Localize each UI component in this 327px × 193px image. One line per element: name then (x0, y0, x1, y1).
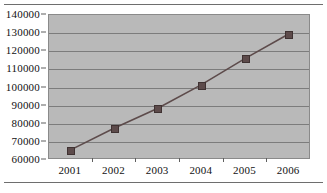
y-axis-tick-mark (41, 104, 46, 105)
series-line (49, 15, 309, 159)
x-axis-tick-label: 2005 (233, 164, 256, 176)
data-point-marker (154, 105, 162, 113)
y-axis-tick-mark (41, 32, 46, 33)
y-axis-tick-mark (41, 159, 46, 160)
y-axis-tick-mark (41, 68, 46, 69)
data-point-marker (67, 147, 75, 155)
y-axis-tick-label: 70000 (12, 135, 41, 147)
y-axis-tick-mark (41, 86, 46, 87)
x-axis-tick-label: 2003 (146, 164, 169, 176)
x-axis-tick-label: 2001 (58, 164, 81, 176)
data-point-marker (198, 82, 206, 90)
y-axis-tick-label: 110000 (6, 62, 40, 74)
y-axis-tick-label: 90000 (12, 99, 41, 111)
x-axis-tick-label: 2004 (189, 164, 212, 176)
data-point-marker (285, 31, 293, 39)
data-point-marker (242, 55, 250, 63)
x-axis: 200120022003200420052006 (48, 161, 310, 181)
y-axis-tick-mark (41, 122, 46, 123)
data-point-marker (111, 125, 119, 133)
y-axis-tick-label: 80000 (12, 117, 41, 129)
y-axis-tick-mark (41, 14, 46, 15)
y-axis-tick-label: 140000 (6, 8, 40, 20)
y-axis-tick-label: 130000 (6, 26, 40, 38)
bottom-divider-rule (4, 182, 323, 183)
x-axis-tick-mark (179, 158, 180, 162)
chart-figure: 6000070000800009000010000011000012000013… (0, 0, 327, 193)
y-axis-tick-label: 120000 (6, 44, 40, 56)
x-axis-tick-label: 2002 (102, 164, 125, 176)
y-axis-tick-label: 60000 (12, 153, 41, 165)
x-axis-tick-mark (266, 158, 267, 162)
x-axis-tick-mark (223, 158, 224, 162)
x-axis-tick-label: 2006 (277, 164, 300, 176)
y-axis: 6000070000800009000010000011000012000013… (0, 14, 46, 159)
y-axis-tick-mark (41, 140, 46, 141)
x-axis-tick-mark (135, 158, 136, 162)
y-axis-tick-label: 100000 (6, 81, 40, 93)
plot-area (48, 14, 310, 159)
x-axis-tick-mark (92, 158, 93, 162)
top-divider-rule (4, 4, 323, 5)
y-axis-tick-mark (41, 50, 46, 51)
